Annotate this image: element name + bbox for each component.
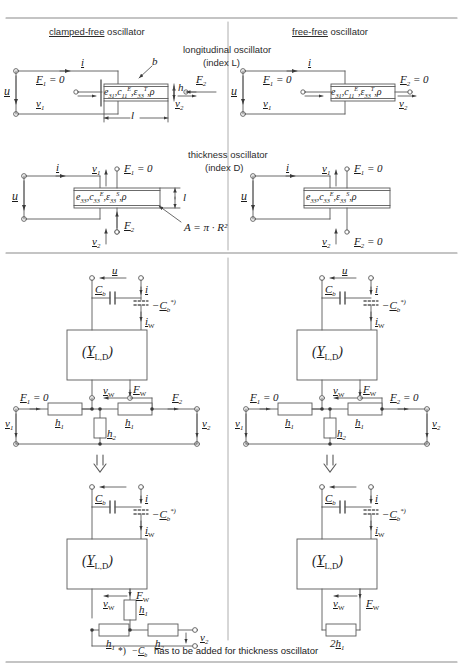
label-F1-zero-ll1: F1 = 0 xyxy=(20,392,49,406)
label-current-i-lr1: i xyxy=(375,284,378,295)
label-area-formula: A = π · R² xyxy=(184,222,227,233)
label-v2-ll2: v2 xyxy=(200,632,208,646)
label-neg-Cb-lr2: −Cb*) xyxy=(382,508,406,523)
label-v1-lr1: v1 xyxy=(235,418,243,432)
label-F2-ml: F2 xyxy=(124,220,134,234)
label-neg-Cb-ll1: −Cb*) xyxy=(152,299,176,314)
label-vW-lr2: vW xyxy=(333,598,344,612)
label-height-h: h xyxy=(178,82,184,93)
figure-page: clamped-free oscillator free-free oscill… xyxy=(0,0,463,670)
footnote: *) −Cb has to be added for thickness osc… xyxy=(118,646,318,659)
label-v2-ll1: v2 xyxy=(202,418,210,432)
label-voltage-u-mr: u xyxy=(241,190,247,202)
label-v1-ml: v1 xyxy=(92,163,100,177)
label-v1-tr: v1 xyxy=(263,98,271,112)
label-v1-mr: v1 xyxy=(322,163,330,177)
label-current-iW-lr2: iW xyxy=(375,525,385,539)
material-params-thickness-right: e33,c33E,ε33S,ρ xyxy=(306,191,357,205)
label-voltage-u-lr1: u xyxy=(342,265,348,276)
figure-vector-layer xyxy=(0,0,463,670)
label-current-i-tl: i xyxy=(81,57,84,68)
label-current-i-ll1: i xyxy=(145,284,148,295)
footnote-text: has to be added for thickness oscillator xyxy=(154,645,318,656)
admittance-block-ll2: (YL,D) xyxy=(82,554,113,570)
label-vW-ll2: vW xyxy=(103,598,114,612)
label-voltage-u-ll1: u xyxy=(112,265,118,276)
label-F2-tl: F2 xyxy=(196,74,206,88)
label-v1-ll1: v1 xyxy=(5,418,13,432)
label-h2-ll1: h2 xyxy=(107,428,116,442)
label-length-l-tl: l xyxy=(131,110,134,121)
label-current-i-mr: i xyxy=(286,162,289,173)
label-FW-ll1: FW xyxy=(133,384,146,398)
label-h1-right-lr1: h1 xyxy=(355,417,364,431)
label-Cb-lr1: Cb xyxy=(325,284,336,298)
label-F2-ll1: F2 xyxy=(172,392,182,406)
header-free-free: free-free oscillator xyxy=(292,27,368,37)
label-v2-mr: v2 xyxy=(322,236,330,250)
mode-index-d: (index D) xyxy=(205,163,244,173)
label-FW-ll2: FW xyxy=(136,590,149,604)
label-F2-zero-lr1: F2 = 0 xyxy=(390,392,419,406)
label-FW-lr1: FW xyxy=(363,384,376,398)
mode-label-thickness: thickness oscillator xyxy=(188,150,268,160)
label-vW-ll1: vW xyxy=(103,385,114,399)
label-h1-left-lr1: h1 xyxy=(285,417,294,431)
label-v2-ml: v2 xyxy=(92,236,100,250)
label-h1-left-ll1: h1 xyxy=(55,417,64,431)
label-current-iW-lr1: iW xyxy=(375,316,385,330)
admittance-block-ll1: (YL,D) xyxy=(82,345,113,361)
label-length-l-ml: l xyxy=(183,192,186,203)
label-current-i-lr2: i xyxy=(375,493,378,504)
mode-label-longitudinal: longitudinal oscillator xyxy=(183,45,271,55)
admittance-block-lr2: (YL,D) xyxy=(312,554,343,570)
admittance-block-lr1: (YL,D) xyxy=(312,345,343,361)
label-2h1-lr2: 2h1 xyxy=(330,638,344,652)
label-neg-Cb-lr1: −Cb*) xyxy=(382,299,406,314)
label-Cb-lr2: Cb xyxy=(325,493,336,507)
label-h2-lr1: h2 xyxy=(337,428,346,442)
label-h1-ll2: h1 xyxy=(106,638,115,652)
label-current-i-ml: i xyxy=(56,162,59,173)
label-vW-lr1: vW xyxy=(333,385,344,399)
material-params-longitudinal-right: e31,c11E,ε33T,ρ xyxy=(331,86,382,100)
label-F1-zero-mr: F1 = 0 xyxy=(354,163,383,177)
label-Cb-ll1: Cb xyxy=(95,284,106,298)
label-neg-Cb-ll2: −Cb*) xyxy=(152,508,176,523)
label-current-iW-ll1: iW xyxy=(145,316,155,330)
material-params-thickness-left: e33,c33E,ε33S,ρ xyxy=(76,191,127,205)
label-h1-vertical-ll2: h1 xyxy=(139,604,148,618)
label-v2-lr1: v2 xyxy=(432,418,440,432)
label-voltage-u-tl: u xyxy=(4,85,10,97)
label-F2-zero-mr: F2 = 0 xyxy=(354,236,383,250)
label-F2-zero-tr: F2 = 0 xyxy=(400,74,429,88)
label-voltage-u-ml: u xyxy=(12,190,18,202)
label-v1-tl: v1 xyxy=(36,98,44,112)
label-Cb-ll2: Cb xyxy=(95,493,106,507)
label-F1-zero-tr: F1 = 0 xyxy=(263,74,292,88)
label-v2-tl: v2 xyxy=(175,98,183,112)
mode-index-l: (index L) xyxy=(203,58,240,68)
label-voltage-u-tr: u xyxy=(231,85,237,97)
footnote-mark: *) xyxy=(118,646,126,656)
label-current-i-ll2: i xyxy=(145,493,148,504)
label-width-b: b xyxy=(152,56,158,67)
label-F1-zero-tl: F1 = 0 xyxy=(36,74,65,88)
label-current-i-tr: i xyxy=(308,57,311,68)
label-F1-zero-lr1: F1 = 0 xyxy=(250,392,279,406)
material-params-longitudinal-left: e31,c11E,ε33T,ρ xyxy=(104,86,155,100)
label-current-iW-ll2: iW xyxy=(145,525,155,539)
label-v2-tr: v2 xyxy=(399,98,407,112)
header-clamped-free: clamped-free oscillator xyxy=(49,27,145,37)
label-F1-zero-ml: F1 = 0 xyxy=(124,163,153,177)
label-h1-right-ll1: h1 xyxy=(125,417,134,431)
label-FW-lr2: FW xyxy=(366,598,379,612)
